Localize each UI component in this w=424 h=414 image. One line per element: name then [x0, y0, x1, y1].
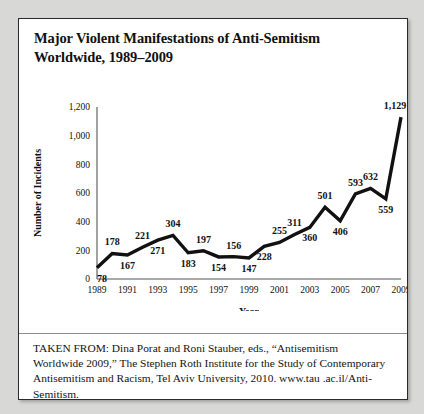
y-tick-0: 0 — [85, 274, 90, 284]
data-label-1991: 167 — [120, 260, 135, 271]
x-tick-2005: 2005 — [331, 285, 350, 295]
data-label-2004: 501 — [318, 190, 333, 201]
x-tick-2007: 2007 — [361, 285, 380, 295]
data-label-1995: 183 — [181, 258, 196, 269]
x-tick-2001: 2001 — [270, 285, 289, 295]
y-tick-1000: 1,000 — [69, 131, 91, 141]
y-axis-tick-labels: 02004006008001,0001,200 — [69, 102, 91, 284]
data-label-1998: 156 — [226, 240, 241, 251]
source-citation: TAKEN FROM: Dina Porat and Roni Stauber,… — [33, 341, 391, 400]
citation-divider — [19, 333, 407, 334]
y-tick-800: 800 — [76, 160, 91, 170]
figure-title-line-2: Worldwide, 1989–2009 — [34, 48, 384, 67]
data-label-1993: 271 — [150, 245, 165, 256]
figure-title: Major Violent Manifestations of Anti-Sem… — [34, 29, 384, 67]
data-label-2009: 1,129 — [384, 100, 407, 111]
chart-plot-area: 02004006008001,0001,200 1989199119931995… — [19, 81, 407, 311]
y-axis-title: Number of Incidents — [32, 149, 43, 237]
data-label-2003: 360 — [302, 232, 317, 243]
incidents-series-line — [97, 117, 401, 268]
data-label-2000: 228 — [257, 251, 272, 262]
data-label-2001: 255 — [272, 225, 287, 236]
data-label-2005: 406 — [333, 226, 348, 237]
data-label-1994: 304 — [166, 218, 181, 229]
y-tick-1200: 1,200 — [69, 102, 91, 112]
data-label-1999: 147 — [242, 263, 257, 274]
y-tick-600: 600 — [76, 188, 91, 198]
data-label-2007: 632 — [363, 171, 378, 182]
data-label-1992: 221 — [135, 230, 150, 241]
x-tick-1991: 1991 — [118, 285, 137, 295]
x-tick-2003: 2003 — [300, 285, 319, 295]
x-tick-1997: 1997 — [209, 285, 228, 295]
x-tick-1989: 1989 — [88, 285, 107, 295]
data-label-1989: 78 — [97, 273, 107, 284]
data-label-1990: 178 — [105, 236, 120, 247]
x-tick-1995: 1995 — [179, 285, 198, 295]
figure-card: Major Violent Manifestations of Anti-Sem… — [18, 18, 408, 400]
x-tick-2009: 2009 — [392, 285, 408, 295]
data-label-2006: 593 — [348, 177, 363, 188]
x-tick-1993: 1993 — [148, 285, 167, 295]
figure-title-line-1: Major Violent Manifestations of Anti-Sem… — [34, 29, 384, 48]
line-chart: 02004006008001,0001,200 1989199119931995… — [19, 81, 407, 311]
x-tick-1999: 1999 — [240, 285, 259, 295]
y-tick-200: 200 — [76, 246, 91, 256]
data-label-2002: 311 — [287, 217, 301, 228]
x-axis-tick-labels: 1989199119931995199719992001200320052007… — [88, 285, 408, 295]
data-label-1996: 197 — [196, 234, 211, 245]
y-tick-400: 400 — [76, 217, 91, 227]
data-label-2008: 559 — [378, 204, 393, 215]
x-axis-title: Year — [239, 306, 260, 311]
data-label-1997: 154 — [211, 262, 226, 273]
